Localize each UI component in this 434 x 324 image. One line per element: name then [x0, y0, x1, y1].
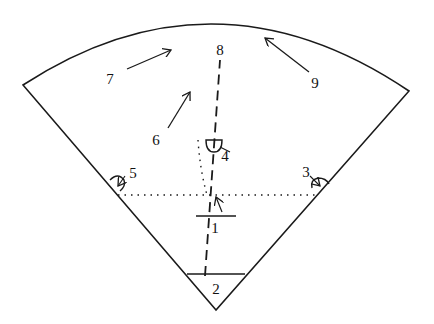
label-5: 5	[129, 166, 137, 181]
sector-outline	[23, 24, 409, 310]
label-4: 4	[221, 149, 229, 164]
arrow-1-icon	[216, 197, 222, 212]
label-8: 8	[216, 43, 224, 58]
arrow-6-icon	[168, 92, 190, 128]
arrow-7-icon	[127, 50, 171, 69]
label-7: 7	[106, 72, 114, 87]
label-6: 6	[152, 133, 160, 148]
dashed-center-line	[205, 60, 220, 276]
arrow-9-icon	[265, 38, 309, 72]
label-3: 3	[302, 165, 310, 180]
label-2: 2	[212, 282, 220, 297]
dotted-path-to-4	[198, 140, 207, 195]
label-9: 9	[311, 76, 319, 91]
diagram-canvas: 1 2 3 4 5 6 7 8 9	[0, 0, 434, 324]
label-1: 1	[211, 221, 219, 236]
